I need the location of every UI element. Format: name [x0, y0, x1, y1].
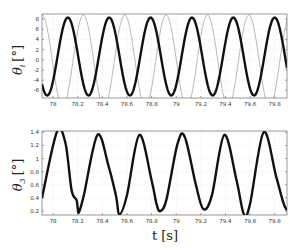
x-tick-label: 79.6 — [244, 218, 257, 224]
x-tick-label: 78.2 — [72, 101, 84, 107]
x-tick-label: 78.6 — [121, 218, 134, 224]
x-tick-label: 78.4 — [96, 101, 109, 107]
y-tick-label: 6 — [36, 26, 40, 32]
x-tick-label: 78 — [50, 218, 57, 224]
y-tick-label: 0.6 — [30, 182, 39, 188]
x-axis-label: t [s] — [152, 228, 178, 243]
top-plot-theta-i: 7878.278.478.678.87979.279.479.679.88642… — [34, 14, 287, 107]
bottom-y-axis-label: θ3[°] — [10, 159, 27, 192]
top-y-axis-label: θi[°] — [10, 45, 27, 75]
x-tick-label: 79 — [173, 101, 180, 107]
x-tick-label: 79.8 — [269, 218, 282, 224]
x-tick-label: 78.4 — [96, 218, 109, 224]
x-tick-label: 78.8 — [145, 101, 158, 107]
x-tick-label: 78.8 — [145, 218, 158, 224]
x-tick-label: 79.4 — [219, 218, 232, 224]
x-tick-label: 79 — [173, 218, 180, 224]
y-tick-label: 1.4 — [30, 129, 39, 135]
y-tick-label: 0.4 — [30, 195, 39, 201]
y-tick-label: 1 — [36, 156, 40, 162]
y-tick-label: -4 — [34, 77, 40, 83]
x-tick-label: 79.2 — [195, 101, 207, 107]
x-tick-label: 79.8 — [269, 101, 282, 107]
chart-figure: 7878.278.478.678.87979.279.479.679.88642… — [0, 0, 301, 250]
y-tick-label: -6 — [34, 87, 40, 93]
x-tick-label: 79.6 — [244, 101, 257, 107]
x-tick-label: 78.2 — [72, 218, 84, 224]
y-tick-label: 0 — [36, 57, 40, 63]
bottom-plot-theta-3: 7878.278.478.678.87979.279.479.679.81.41… — [30, 129, 287, 224]
y-tick-label: 4 — [36, 36, 40, 42]
y-tick-label: 0.8 — [30, 169, 39, 175]
y-tick-label: -2 — [34, 67, 39, 73]
y-tick-label: 1.2 — [30, 142, 39, 148]
x-tick-label: 78.6 — [121, 101, 134, 107]
x-tick-label: 78 — [50, 101, 57, 107]
y-tick-label: 2 — [36, 47, 40, 53]
y-tick-label: 0.2 — [30, 208, 39, 214]
x-tick-label: 79.2 — [195, 218, 207, 224]
y-tick-label: 8 — [36, 16, 40, 22]
x-tick-label: 79.4 — [219, 101, 232, 107]
